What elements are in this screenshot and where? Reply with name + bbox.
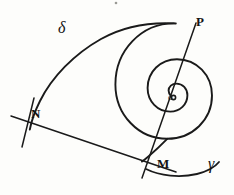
figure-canvas [0, 0, 234, 195]
paper-speck [115, 2, 118, 5]
pole-label-o: o [168, 93, 173, 102]
point-label-p: P [196, 15, 204, 28]
arc-label-delta: δ [58, 20, 65, 36]
spiral-curve [115, 23, 212, 138]
line-n-m [11, 116, 176, 172]
arc-label-gamma: γ [208, 156, 214, 172]
point-label-m: M [157, 157, 169, 170]
point-label-n: N [31, 107, 40, 120]
geometry-figure: P N M δ γ o [0, 0, 234, 195]
spiral-outer-arm [30, 23, 174, 129]
